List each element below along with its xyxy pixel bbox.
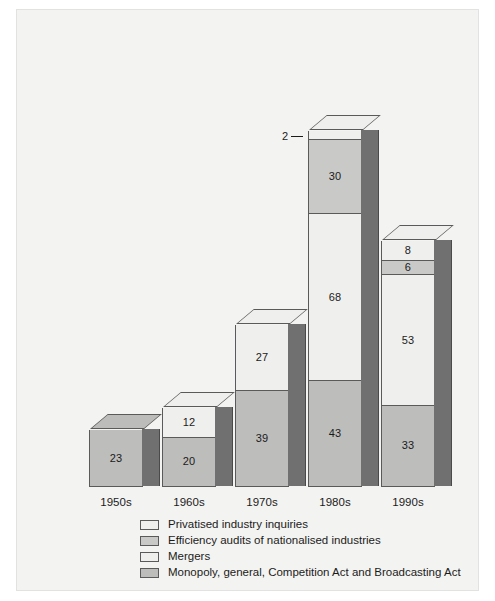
bar-stack: 2739 [235,325,289,487]
bar-segment: 23 [90,430,142,487]
bar-top-face [382,225,454,240]
legend-item-label: Privatised industry inquiries [168,519,308,531]
legend-swatch-icon [140,536,159,546]
segment-value-label: 30 [329,171,342,182]
segment-value-label: 23 [110,453,123,464]
segment-value-label: 39 [256,433,269,444]
bar-top-face [90,414,162,429]
bar-stack: 1220 [162,408,216,487]
segment-value-label: 43 [329,428,342,439]
plot-area: 231950s12201960s27391970s30684321980s865… [17,10,480,592]
bar-top-face [163,392,235,407]
bar-top-face [236,309,308,324]
bar-side-face [142,429,160,486]
legend-swatch-icon [140,520,159,530]
bar-stack: 865333 [381,241,435,487]
bar-side-face [288,324,306,486]
bar-segment: 43 [309,381,361,487]
x-axis-tick-1980s: 1980s [299,496,371,508]
chart-legend: Privatised industry inquiriesEfficiency … [140,517,460,581]
bar-stack: 306843 [308,131,362,487]
x-axis-tick-1950s: 1950s [80,496,152,508]
bar-segment: 20 [163,438,215,487]
bar-segment: 6 [382,261,434,276]
bar-segment: 68 [309,214,361,381]
legend-item: Efficiency audits of nationalised indust… [140,533,460,548]
chart-figure: 231950s12201960s27391970s30684321980s865… [0,0,495,601]
chart-panel: 231950s12201960s27391970s30684321980s865… [16,9,479,591]
x-axis-tick-1960s: 1960s [153,496,225,508]
segment-value-label: 53 [402,335,415,346]
segment-value-label: 12 [183,417,196,428]
legend-item: Privatised industry inquiries [140,517,460,532]
bar-side-face [434,240,452,486]
legend-swatch-icon [140,552,159,562]
segment-value-label: 8 [405,245,411,256]
bar-segment: 30 [309,140,361,214]
bar-segment: 33 [382,406,434,487]
bar-side-face [215,407,233,486]
segment-value-label: 27 [256,352,269,363]
legend-item: Mergers [140,549,460,564]
segment-value-label: 33 [402,440,415,451]
bar-segment: 8 [382,241,434,261]
legend-item: Monopoly, general, Competition Act and B… [140,565,460,580]
bar-segment [309,131,361,140]
x-axis-tick-1970s: 1970s [226,496,298,508]
bar-segment: 27 [236,325,288,391]
segment-value-label: 68 [329,292,342,303]
legend-swatch-icon [140,568,159,578]
legend-item-label: Monopoly, general, Competition Act and B… [168,567,461,579]
bar-segment: 12 [163,408,215,438]
x-axis-tick-1990s: 1990s [372,496,444,508]
legend-item-label: Mergers [168,551,210,563]
bar-top-face [309,115,381,130]
segment-value-label: 20 [183,456,196,467]
bar-segment: 39 [236,391,288,487]
bar-side-face [361,130,379,486]
bar-segment: 53 [382,275,434,405]
bar-stack: 23 [89,430,143,487]
segment-value-label: 6 [405,262,411,273]
legend-item-label: Efficiency audits of nationalised indust… [168,535,381,547]
segment-callout-label: 2 [282,130,303,142]
